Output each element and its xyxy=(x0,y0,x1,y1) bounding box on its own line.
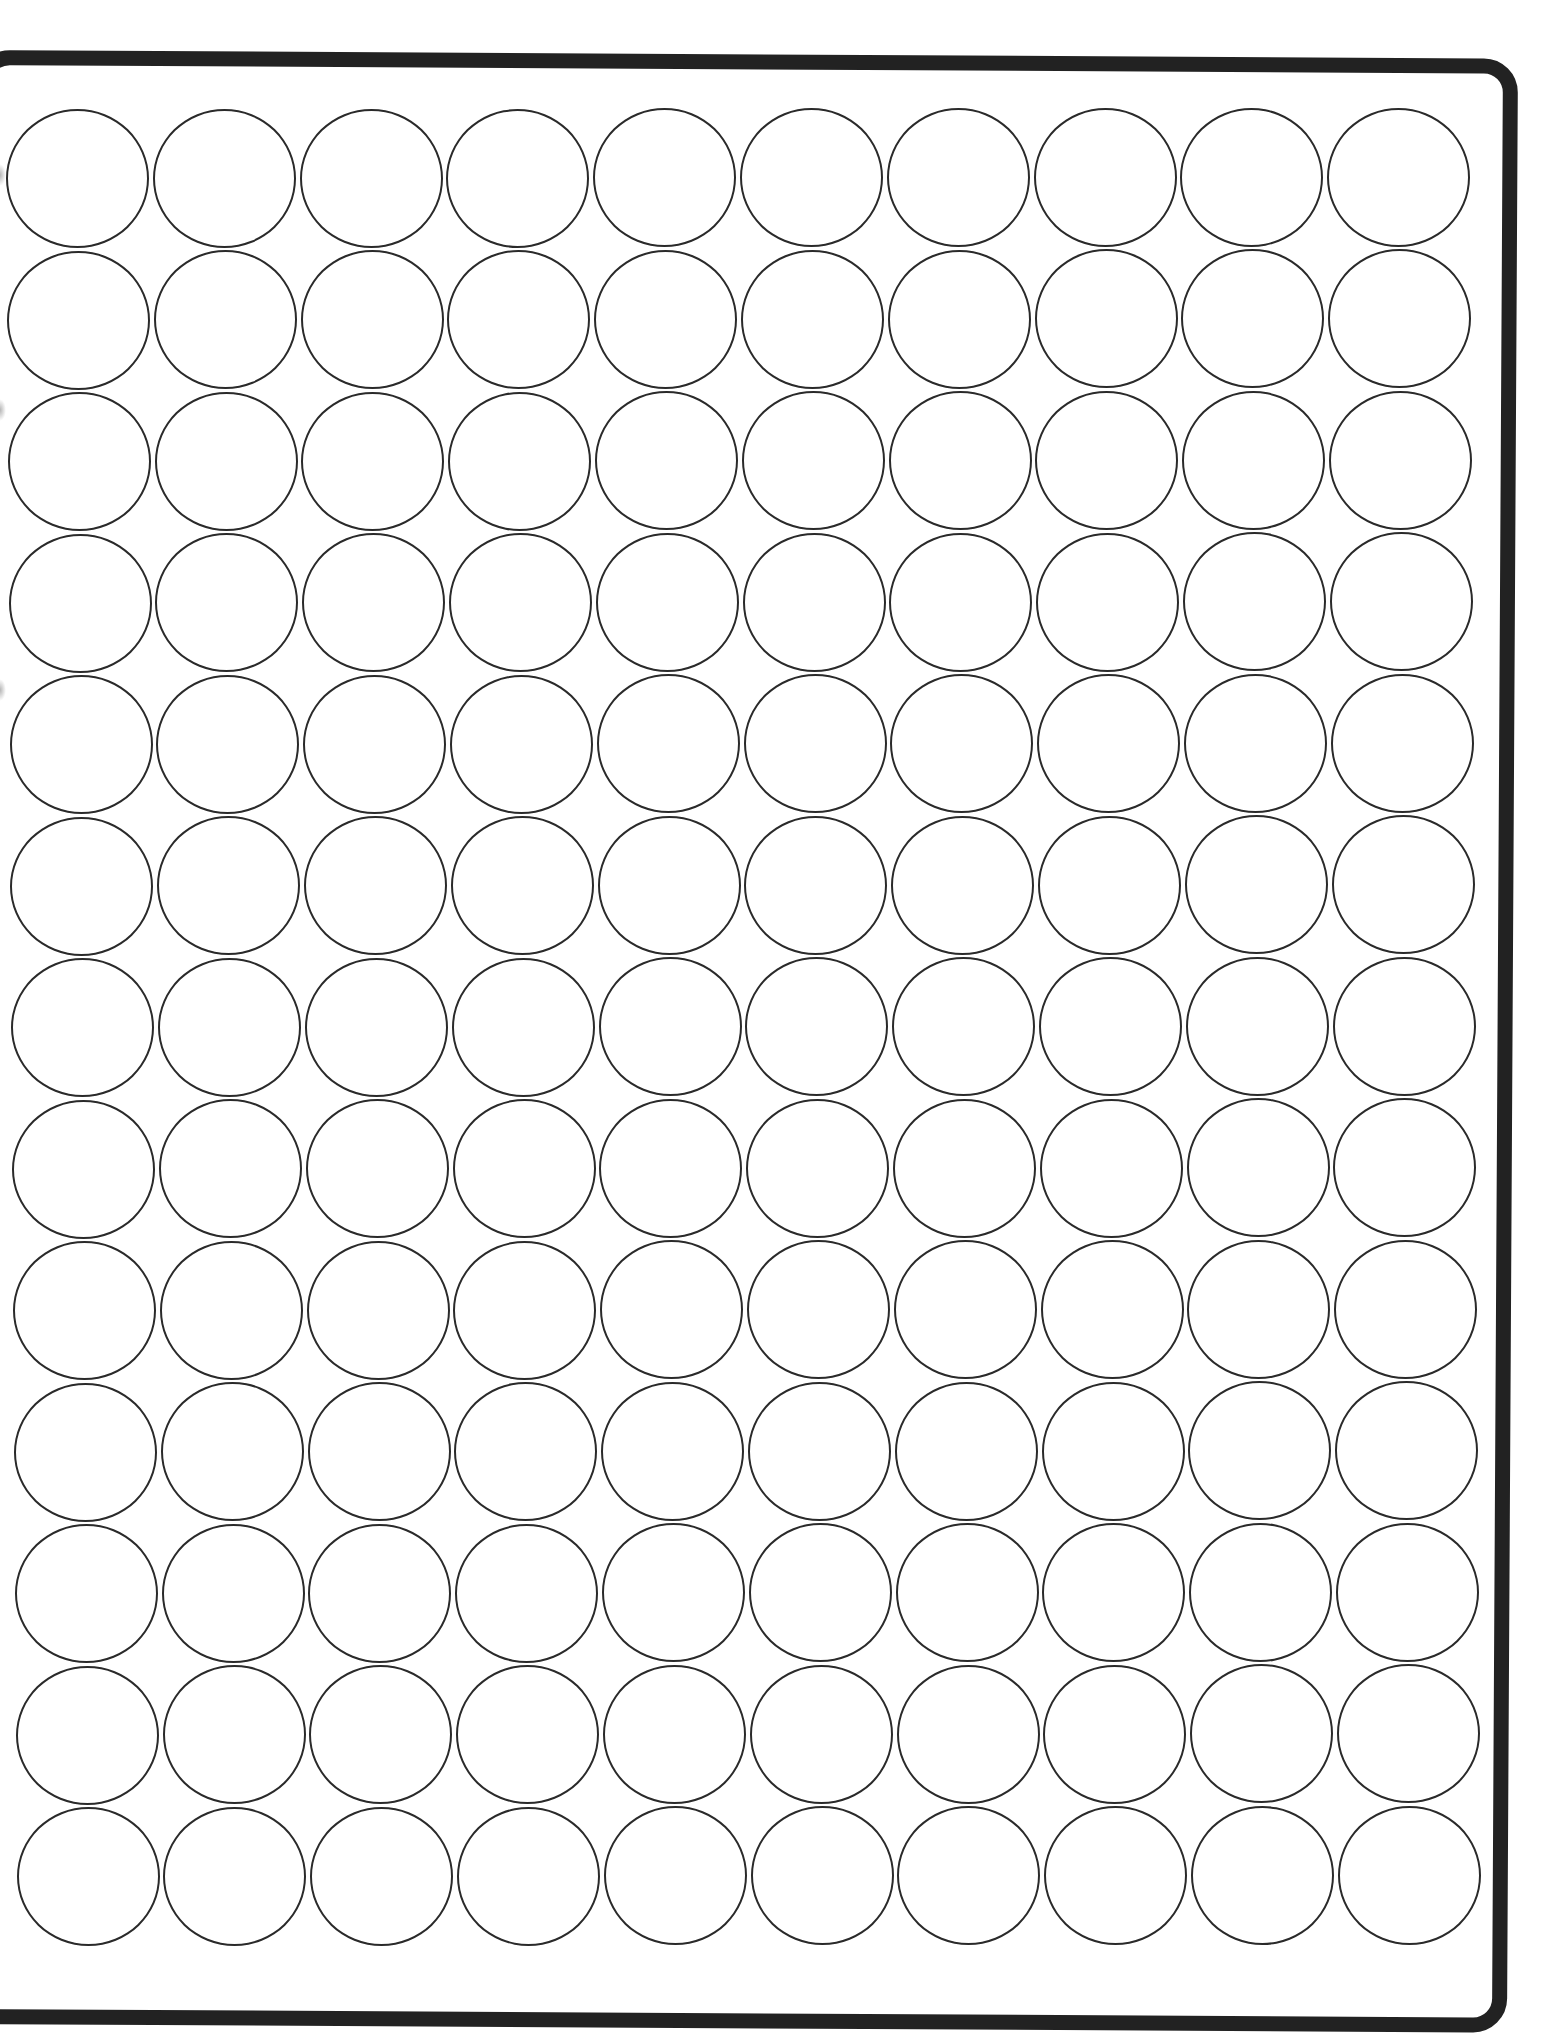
label-circle xyxy=(1180,108,1323,247)
label-circle xyxy=(748,1382,891,1521)
label-circle xyxy=(604,1806,747,1945)
label-circle xyxy=(12,1100,155,1239)
label-circle xyxy=(594,250,737,389)
label-circle xyxy=(15,1524,158,1663)
label-circle xyxy=(596,533,739,672)
label-circle xyxy=(1038,816,1181,955)
label-circle xyxy=(1338,1806,1481,1945)
label-circle xyxy=(451,816,594,955)
label-circle xyxy=(1043,1665,1186,1804)
label-circle xyxy=(7,251,150,390)
label-circle xyxy=(895,1382,1038,1521)
label-circle xyxy=(1035,391,1178,530)
label-circle xyxy=(894,1240,1037,1379)
label-circle xyxy=(1190,1664,1333,1803)
label-circle xyxy=(303,675,446,814)
label-circle xyxy=(305,958,448,1097)
label-circle xyxy=(1191,1806,1334,1945)
label-circle xyxy=(751,1806,894,1945)
label-circle xyxy=(1334,1240,1477,1379)
label-circle xyxy=(888,250,1031,389)
label-circle xyxy=(741,250,884,389)
label-circle xyxy=(158,958,301,1097)
label-circle xyxy=(17,1807,160,1946)
label-circle xyxy=(1035,249,1178,388)
label-circle xyxy=(453,1099,596,1238)
label-circle xyxy=(446,109,589,248)
label-circle xyxy=(1187,1098,1330,1237)
label-circle xyxy=(13,1241,156,1380)
label-circle xyxy=(6,109,149,248)
label-circle xyxy=(455,1524,598,1663)
label-circle xyxy=(891,816,1034,955)
label-circle xyxy=(598,816,741,955)
label-circle xyxy=(743,533,886,672)
label-circle xyxy=(595,391,738,530)
label-circle xyxy=(897,1806,1040,1945)
label-circle xyxy=(157,816,300,955)
label-circle xyxy=(1036,533,1179,672)
label-circle xyxy=(155,533,298,672)
label-circle xyxy=(1331,674,1474,813)
label-circle xyxy=(301,250,444,389)
label-circle xyxy=(163,1807,306,1946)
label-circle xyxy=(747,1240,890,1379)
label-circle xyxy=(890,674,1033,813)
label-circle xyxy=(162,1524,305,1663)
label-circle xyxy=(156,675,299,814)
label-circle xyxy=(1327,108,1470,247)
label-circle xyxy=(1336,1523,1479,1662)
label-circle xyxy=(593,108,736,247)
label-grid xyxy=(0,0,1565,2040)
label-circle xyxy=(304,816,447,955)
label-circle xyxy=(308,1524,451,1663)
label-circle xyxy=(447,250,590,389)
label-circle xyxy=(745,957,888,1096)
label-circle xyxy=(14,1383,157,1522)
label-circle xyxy=(1328,249,1471,388)
label-circle xyxy=(1183,532,1326,671)
label-circle xyxy=(310,1807,453,1946)
label-circle xyxy=(887,108,1030,247)
label-circle xyxy=(742,391,885,530)
label-circle xyxy=(892,957,1035,1096)
label-circle xyxy=(163,1665,306,1804)
label-circle xyxy=(1188,1381,1331,1520)
label-circle xyxy=(160,1241,303,1380)
label-circle xyxy=(896,1523,1039,1662)
label-circle xyxy=(8,392,151,531)
label-circle xyxy=(307,1241,450,1380)
label-circle xyxy=(1041,1240,1184,1379)
label-circle xyxy=(450,675,593,814)
label-circle xyxy=(1042,1523,1185,1662)
label-circle xyxy=(453,1241,596,1380)
label-circle xyxy=(452,958,595,1097)
label-circle xyxy=(599,957,742,1096)
label-circle xyxy=(155,392,298,531)
label-circle xyxy=(454,1382,597,1521)
label-circle xyxy=(1329,391,1472,530)
label-circle xyxy=(746,1099,889,1238)
label-circle xyxy=(889,391,1032,530)
label-circle xyxy=(11,958,154,1097)
label-circle xyxy=(9,534,152,673)
label-circle xyxy=(449,533,592,672)
label-circle xyxy=(1186,957,1329,1096)
label-circle xyxy=(1034,108,1177,247)
label-circle xyxy=(897,1665,1040,1804)
label-circle xyxy=(1333,1098,1476,1237)
label-circle xyxy=(300,109,443,248)
label-circle xyxy=(597,674,740,813)
label-circle xyxy=(744,816,887,955)
label-circle xyxy=(457,1807,600,1946)
label-circle xyxy=(1037,674,1180,813)
label-circle xyxy=(1040,1099,1183,1238)
label-circle xyxy=(1333,957,1476,1096)
label-circle xyxy=(154,250,297,389)
label-circle xyxy=(1039,957,1182,1096)
scan-smudge xyxy=(0,399,6,421)
label-circle xyxy=(1184,674,1327,813)
label-circle xyxy=(599,1099,742,1238)
label-circle xyxy=(309,1665,452,1804)
label-circle xyxy=(601,1382,744,1521)
